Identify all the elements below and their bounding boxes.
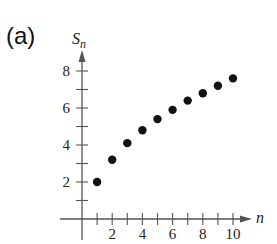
x-tick-label: 6 — [169, 226, 177, 242]
x-axis-arrow-icon — [240, 216, 252, 223]
data-point — [184, 96, 192, 104]
data-point — [138, 126, 146, 134]
y-tick-label: 6 — [63, 100, 71, 116]
data-point — [108, 156, 116, 164]
data-point — [214, 82, 222, 90]
data-point — [153, 115, 161, 123]
y-tick-label: 8 — [63, 63, 71, 79]
y-tick-label: 4 — [63, 137, 71, 153]
x-axis-title: n — [256, 209, 264, 226]
y-axis-title: Sn — [72, 30, 86, 51]
y-axis-arrow-icon — [79, 50, 86, 62]
data-point — [93, 178, 101, 186]
data-point — [199, 89, 207, 97]
scatter-chart: 2468102468Snn — [0, 0, 277, 244]
x-tick-label: 8 — [199, 226, 207, 242]
x-tick-label: 2 — [108, 226, 116, 242]
x-tick-label: 10 — [226, 226, 241, 242]
data-point — [229, 74, 237, 82]
data-point — [168, 106, 176, 114]
y-tick-label: 2 — [63, 174, 71, 190]
x-tick-label: 4 — [139, 226, 147, 242]
data-point — [123, 139, 131, 147]
